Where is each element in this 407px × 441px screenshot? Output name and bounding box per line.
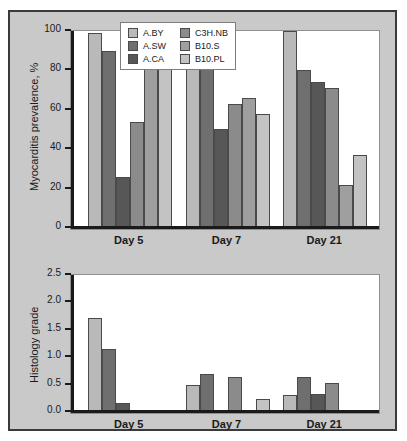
legend-item: A.CA [128,54,166,64]
bar [228,104,242,226]
x-tick-label: Day 21 [307,418,342,430]
legend-swatch-icon [180,41,190,51]
bar [256,114,270,226]
y-tick-label: 100 [10,23,61,34]
bar [311,82,325,226]
bar [256,399,270,410]
y-tick-mark [65,355,71,357]
y-tick-label: 2.0 [10,294,61,305]
legend: A.BYC3H.NBA.SWB10.SA.CAB10.PL [120,22,236,70]
bar [242,98,256,226]
bar [214,129,228,226]
bar [311,394,325,410]
legend-item: B10.PL [180,54,228,64]
legend-label: A.CA [143,54,164,64]
bar [130,122,144,226]
y-tick-label: 0.0 [10,404,61,415]
y-tick-mark [65,328,71,330]
x-axis-line-bottom [71,410,379,413]
y-tick-label: 0.5 [10,377,61,388]
y-tick-label: 0 [10,220,61,231]
y-tick-mark [65,29,71,31]
figure-panel: Myocarditis prevalence, % 020406080100 D… [8,10,397,431]
x-tick-label: Day 5 [114,418,143,430]
legend-item: A.BY [128,28,166,38]
x-tick-label: Day 21 [307,234,342,246]
y-tick-label: 40 [10,141,61,152]
y-tick-mark [65,300,71,302]
y-tick-mark [65,226,71,228]
x-tick-label: Day 7 [212,234,241,246]
legend-label: A.BY [143,28,164,38]
bar [353,155,367,226]
bar [325,383,339,410]
x-tick-label: Day 7 [212,418,241,430]
x-tick-label: Day 5 [114,234,143,246]
y-tick-label: 2.5 [10,267,61,278]
y-tick-mark [65,383,71,385]
legend-label: A.SW [143,41,166,51]
y-tick-label: 60 [10,102,61,113]
legend-label: C3H.NB [195,28,228,38]
legend-label: B10.PL [195,54,225,64]
bar [200,374,214,410]
y-tick-mark [65,187,71,189]
y-tick-label: 20 [10,181,61,192]
chart-histology-grade [70,274,380,414]
legend-swatch-icon [180,54,190,64]
legend-item: B10.S [180,41,228,51]
y-tick-mark [65,410,71,412]
bar [228,377,242,410]
legend-item: A.SW [128,41,166,51]
bar [339,185,353,226]
y-tick-mark [65,147,71,149]
y-tick-mark [65,273,71,275]
legend-label: B10.S [195,41,220,51]
bar [144,51,158,226]
x-axis-line-top [71,226,379,229]
y-tick-mark [65,68,71,70]
plot-area-bottom [74,275,379,410]
bar [88,318,102,410]
y-axis-label-prevalence: Myocarditis prevalence, % [28,52,40,202]
bar-group [88,275,172,410]
bar [297,70,311,226]
legend-swatch-icon [128,28,138,38]
bar [186,385,200,410]
bar [158,59,172,226]
y-tick-label: 80 [10,62,61,73]
legend-swatch-icon [128,41,138,51]
bar [102,51,116,226]
bar-group [283,275,367,410]
bar-group [283,31,367,226]
y-tick-mark [65,108,71,110]
legend-swatch-icon [128,54,138,64]
legend-item: C3H.NB [180,28,228,38]
bar [116,177,130,226]
bar [297,377,311,410]
bar [283,395,297,410]
bar [102,349,116,410]
y-tick-label: 1.5 [10,322,61,333]
legend-swatch-icon [180,28,190,38]
bar [88,33,102,226]
bar [325,88,339,226]
bar [283,31,297,226]
bar [116,403,130,410]
bar-group [186,275,270,410]
y-tick-label: 1.0 [10,349,61,360]
